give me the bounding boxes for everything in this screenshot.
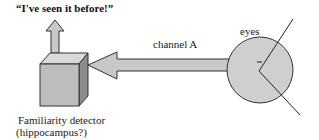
detector-label-line2: (hippocampus?) xyxy=(16,126,87,138)
output-arrow-icon xyxy=(46,20,64,53)
familiarity-detector-cube-icon xyxy=(40,53,88,106)
eyes-label: eyes xyxy=(240,25,260,37)
detector-label-line1: Familiarity detector xyxy=(18,114,105,126)
channel-a-arrow-icon xyxy=(88,52,229,79)
channel-label: channel A xyxy=(153,38,197,50)
